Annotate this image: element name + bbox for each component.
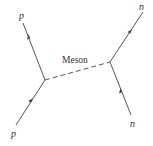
neutron-out-label: n: [139, 1, 144, 12]
proton-in-line: [16, 80, 45, 125]
neutron-in-label: n: [130, 118, 135, 129]
proton-out-line: [23, 23, 45, 80]
proton-out-label: p: [18, 10, 24, 21]
feynman-diagram: p p n n Meson: [0, 0, 153, 146]
proton-in-label: p: [10, 128, 16, 139]
neutron-out-line: [110, 12, 143, 62]
arrow-icon: [128, 29, 133, 34]
meson-label: Meson: [62, 55, 88, 65]
